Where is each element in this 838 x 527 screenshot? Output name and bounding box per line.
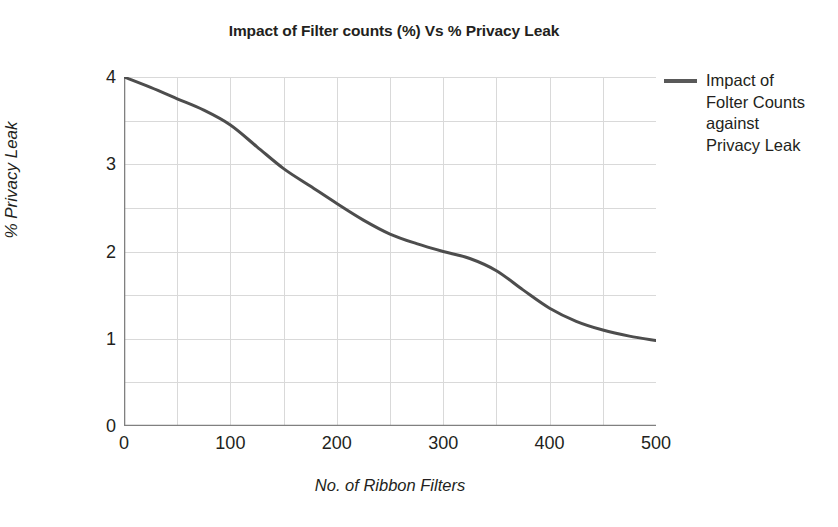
x-axis-tick-label: 300 [408,432,478,454]
y-axis-title: % Privacy Leak [2,20,22,340]
y-axis-tick-label: 1 [88,330,116,348]
grid-vertical-lines [125,77,657,426]
chart-title: Impact of Filter counts (%) Vs % Privacy… [124,22,664,40]
y-axis-tick-label: 2 [88,243,116,261]
x-axis-tick-label: 200 [302,432,372,454]
x-axis-title: No. of Ribbon Filters [124,476,656,495]
x-axis-tick-label: 400 [515,432,585,454]
chart-container: Impact of Filter counts (%) Vs % Privacy… [0,0,838,527]
x-axis-tick-labels: 0100200300400500 [124,432,656,458]
chart-plot-svg [124,77,656,426]
chart-legend: Impact of Folter Counts against Privacy … [664,70,834,156]
legend-label: Impact of Folter Counts against Privacy … [706,70,814,156]
y-axis-tick-label: 4 [88,68,116,86]
x-axis-tick-label: 100 [195,432,265,454]
legend-line-swatch-icon [664,79,697,83]
y-axis-tick-label: 3 [88,155,116,173]
plot-area [124,77,656,426]
legend-entry[interactable]: Impact of Folter Counts against Privacy … [664,70,834,156]
y-axis-tick-labels: 01234 [88,77,116,426]
x-axis-tick-label: 0 [89,432,159,454]
x-axis-tick-label: 500 [621,432,691,454]
